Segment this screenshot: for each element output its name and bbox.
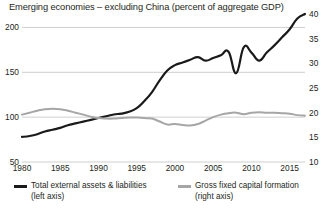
series-lines: [22, 14, 305, 162]
legend-sublabel-left-axis: (left axis): [31, 192, 147, 203]
y-tick-right-35: 35: [309, 34, 318, 44]
x-tick-1985: 1985: [51, 163, 70, 173]
chart-legend: Total external assets & liabilities (lef…: [0, 181, 330, 208]
y-axis-left: 50100150200: [0, 14, 19, 162]
legend-sublabel-right-axis: (right axis): [195, 192, 299, 203]
x-tick-1995: 1995: [127, 163, 146, 173]
x-tick-2005: 2005: [204, 163, 223, 173]
legend-entry-1: Gross fixed capital formation (right axi…: [178, 181, 299, 202]
plot-area: [22, 14, 305, 162]
y-tick-left-150: 150: [5, 67, 19, 77]
y-tick-left-200: 200: [5, 22, 19, 32]
x-tick-1990: 1990: [89, 163, 108, 173]
x-tick-2010: 2010: [242, 163, 261, 173]
y-tick-right-40: 40: [309, 9, 318, 19]
legend-label-gross-fixed-capital: Gross fixed capital formation: [195, 181, 299, 192]
chart-figure: Emerging economies – excluding China (pe…: [0, 0, 330, 208]
legend-swatch-gross-fixed-capital: [178, 185, 191, 188]
y-tick-right-10: 10: [309, 157, 318, 167]
y-tick-right-30: 30: [309, 58, 318, 68]
legend-label-total-external: Total external assets & liabilities: [31, 181, 147, 192]
x-tick-2015: 2015: [280, 163, 299, 173]
series-line-1: [22, 109, 305, 126]
x-tick-2000: 2000: [166, 163, 185, 173]
chart-title: Emerging economies – excluding China (pe…: [9, 2, 284, 12]
x-tick-1980: 1980: [13, 163, 32, 173]
legend-entry-0: Total external assets & liabilities (lef…: [14, 181, 147, 202]
y-tick-right-15: 15: [309, 132, 318, 142]
y-tick-left-100: 100: [5, 112, 19, 122]
y-tick-right-20: 20: [309, 108, 318, 118]
series-line-0: [22, 14, 305, 137]
y-axis-right: 10152025303540: [309, 14, 330, 162]
legend-swatch-total-external: [14, 185, 27, 188]
x-axis: 19801985199019952000200520102015: [22, 163, 305, 177]
y-tick-right-25: 25: [309, 83, 318, 93]
